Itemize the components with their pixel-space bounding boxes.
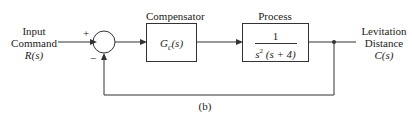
process-title: Process — [242, 10, 308, 22]
minus-sign: − — [88, 52, 98, 64]
input-label-line1: Input — [8, 25, 60, 37]
tf-g: G — [160, 37, 168, 49]
process-numerator: 1 — [243, 30, 308, 42]
caption: (b) — [190, 100, 220, 112]
input-label: Input Command R(s) — [8, 25, 60, 61]
fraction-bar — [255, 43, 297, 44]
output-label-line2: Distance — [356, 37, 412, 49]
tf-arg: (s) — [171, 37, 183, 49]
output-label-line1: Levitation — [356, 25, 412, 37]
plus-sign: + — [81, 27, 91, 39]
input-label-line3: R(s) — [8, 49, 60, 61]
output-label-line3: C(s) — [356, 49, 412, 61]
input-label-line2: Command — [8, 37, 60, 49]
process-denominator: s2 (s + 4) — [243, 45, 308, 60]
compensator-title: Compensator — [146, 10, 198, 22]
den-rest: (s + 4) — [263, 48, 296, 60]
output-label: Levitation Distance C(s) — [356, 25, 412, 61]
process-block: 1 s2 (s + 4) — [242, 23, 309, 62]
compensator-block: Gc(s) — [146, 23, 197, 62]
compensator-tf: Gc(s) — [147, 37, 196, 54]
